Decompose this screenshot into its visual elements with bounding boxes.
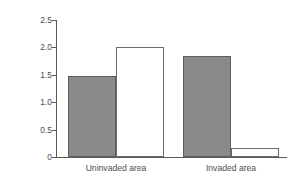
y-axis-title: Scowing density per m2 (corrected) xyxy=(6,0,26,20)
y-tick-label: 0.5 xyxy=(40,125,52,135)
y-tick-mark xyxy=(52,102,56,103)
y-tick-mark xyxy=(52,157,56,158)
x-axis-label-uninvaded: Uninvaded area xyxy=(86,163,147,173)
y-tick-label: 0 xyxy=(47,152,52,162)
y-tick-label: 2.5 xyxy=(40,15,52,25)
bar-open xyxy=(231,148,279,157)
x-axis-label-invaded: Invaded area xyxy=(206,163,256,173)
plot-area: 2.52.01.51.00.50 xyxy=(56,20,287,157)
y-tick-mark xyxy=(52,75,56,76)
y-tick-label: 1.5 xyxy=(40,70,52,80)
y-tick-mark xyxy=(52,130,56,131)
x-axis-line xyxy=(56,157,287,158)
y-tick-label: 2.0 xyxy=(40,42,52,52)
bar-chart: Scowing density per m2 (corrected) 2.52.… xyxy=(0,0,301,183)
y-tick-mark xyxy=(52,47,56,48)
y-axis-line xyxy=(56,20,57,157)
bar-open xyxy=(116,47,164,157)
y-tick-label: 1.0 xyxy=(40,97,52,107)
bar-filled xyxy=(68,76,116,157)
bar-filled xyxy=(183,56,231,157)
y-tick-mark xyxy=(52,20,56,21)
